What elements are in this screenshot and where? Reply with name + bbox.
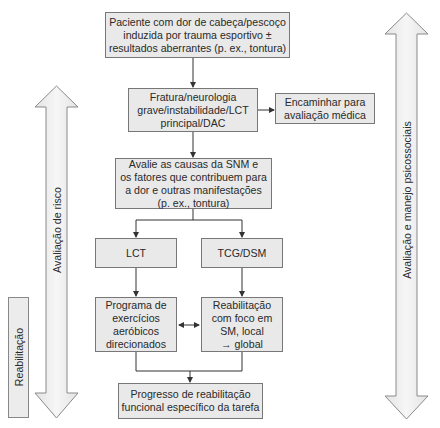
node-text-line: Reabilitação [212, 299, 273, 312]
node-text-line: Avalie as causas da SNM e [120, 158, 267, 171]
node-red-flags: Fratura/neurologia grave/instabilidade/L… [128, 88, 258, 132]
node-text-line: TCG/DSM [218, 247, 267, 260]
node-text-line: (p. ex., tontura) [120, 197, 267, 210]
node-text-line: os fatores que contribuem para [120, 171, 267, 184]
node-text-line: direcionados [105, 338, 166, 351]
risk-assessment-label: Avaliação de risco [51, 187, 63, 273]
node-text-line: resultados aberrantes (p. ex., tontura) [109, 42, 286, 55]
psychosocial-label: Avaliação e manejo psicossociais [401, 121, 413, 279]
node-text-line: Encaminhar para [284, 96, 366, 109]
node-lct: LCT [95, 238, 177, 268]
node-text-line: → global [212, 338, 273, 351]
node-functional-progress: Progresso de reabilitação funcional espe… [118, 383, 263, 419]
node-text-line: grave/instabilidade/LCT [137, 104, 248, 117]
node-text-line: Paciente com dor de cabeça/pescoço [109, 16, 286, 29]
node-text-line: principal/DAC [137, 117, 248, 130]
connector-layer [0, 0, 440, 428]
rehabilitation-label: Reabilitação [13, 328, 25, 386]
connector-merge [136, 352, 242, 371]
node-text-line: Progresso de reabilitação [122, 388, 260, 401]
node-text-line: Fratura/neurologia [137, 91, 248, 104]
node-text-line: SM, local [212, 325, 273, 338]
connector-assess-to-lct [136, 209, 193, 237]
node-assess-causes: Avalie as causas da SNM e os fatores que… [115, 158, 272, 209]
node-sm-rehabilitation: Reabilitação com foco em SM, local → glo… [201, 297, 283, 352]
node-aerobic-program: Programa de exercícios aeróbicos direcio… [95, 297, 177, 352]
node-tcg-dsm: TCG/DSM [201, 238, 283, 268]
node-start-patient: Paciente com dor de cabeça/pescoço induz… [105, 12, 290, 58]
node-text-line: exercícios [105, 312, 166, 325]
node-text-line: LCT [126, 247, 146, 260]
node-text-line: funcional específico da tarefa [122, 401, 260, 414]
connector-assess-to-tcg [193, 220, 242, 237]
node-text-line: Programa de [105, 299, 166, 312]
node-text-line: aeróbicos [105, 325, 166, 338]
node-medical-referral: Encaminhar para avaliação médica [275, 93, 375, 124]
node-text-line: a dor e outras manifestações [120, 184, 267, 197]
node-text-line: induzida por trauma esportivo ± [109, 29, 286, 42]
node-text-line: com foco em [212, 312, 273, 325]
node-text-line: avaliação médica [284, 109, 366, 122]
